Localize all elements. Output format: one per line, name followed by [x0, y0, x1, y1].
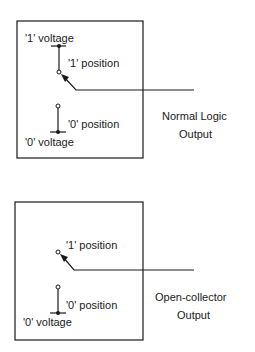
zero-voltage-node [56, 311, 60, 315]
caption-line1: Open-collector [155, 291, 227, 303]
zero-voltage-node [56, 130, 60, 134]
zero-position-contact [56, 285, 60, 289]
one-voltage-label: '1' voltage [25, 32, 74, 44]
one-position-contact [56, 250, 60, 254]
zero-position-contact [56, 104, 60, 108]
zero-position-label: '0' position [66, 299, 117, 311]
caption-line2: Output [177, 309, 210, 321]
logic-output-diagram: '1' voltage '1' position '0' position '0… [0, 0, 255, 352]
one-position-contact [57, 70, 61, 74]
one-position-label: '1' position [66, 239, 117, 251]
zero-voltage-label: '0' voltage [23, 316, 72, 328]
zero-position-label: '0' position [68, 118, 119, 130]
caption-line2: Output [179, 128, 212, 140]
switch-arm [64, 77, 194, 90]
normal-logic-diagram: '1' voltage '1' position '0' position '0… [17, 21, 227, 158]
one-position-label: '1' position [68, 57, 119, 69]
open-collector-diagram: '1' position '0' position '0' voltage Op… [15, 202, 227, 340]
caption-line1: Normal Logic [162, 110, 227, 122]
zero-voltage-label: '0' voltage [25, 136, 74, 148]
switch-arm [63, 257, 194, 270]
